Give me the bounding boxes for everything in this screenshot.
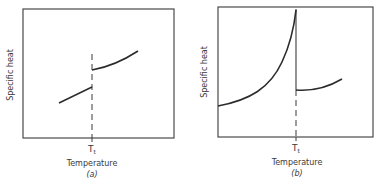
figure: Tt Temperature (a) Specific heat Tt Temp…: [0, 0, 379, 182]
tick-label-a: Tt: [87, 144, 97, 155]
panel-b: Tt Temperature (b) Specific heat: [200, 7, 373, 178]
panel-a: Tt Temperature (a) Specific heat: [6, 9, 174, 179]
curve-above-tt-b: [296, 79, 342, 90]
x-axis-label-b: Temperature: [271, 158, 323, 167]
curve-below-tt-b: [218, 10, 296, 106]
caption-b: (b): [291, 169, 302, 178]
y-axis-label-a: Specific heat: [6, 49, 15, 101]
x-axis-label-a: Temperature: [66, 159, 118, 168]
curve-below-tt-a: [59, 87, 92, 103]
caption-a: (a): [86, 170, 97, 179]
plot-frame-a: [23, 9, 174, 138]
y-axis-label-b: Specific heat: [200, 46, 209, 98]
tick-label-b: Tt: [291, 143, 301, 154]
curve-above-tt-a: [92, 51, 138, 70]
